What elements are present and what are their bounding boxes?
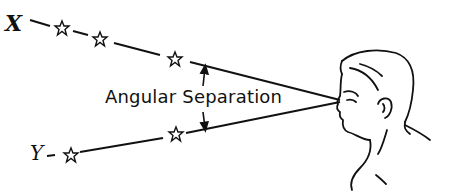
star-icon [168,52,182,66]
observer-head-icon [337,50,430,190]
star-icon [169,127,183,141]
star-y-label: Y [30,141,43,165]
sightline-y [47,102,340,156]
angular-separation-diagram: X Y Angular Separation [0,0,455,193]
star-x-label: X [5,10,22,36]
star-icon [55,21,69,35]
star-icon [64,148,78,162]
angular-separation-label: Angular Separation [105,86,282,107]
star-icon [93,32,107,46]
